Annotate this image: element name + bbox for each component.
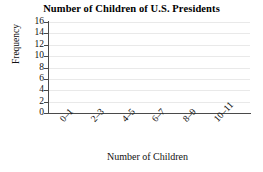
gridline <box>48 22 250 23</box>
x-axis-tick-labels: 0–12–34–56–78–910–11 <box>48 113 251 153</box>
y-tick-label: 14 <box>24 28 44 38</box>
y-tick-label: 16 <box>24 17 44 27</box>
y-tick-label: 2 <box>24 97 44 107</box>
gridline <box>48 56 250 57</box>
y-tick-label: 8 <box>24 63 44 73</box>
chart-figure: Number of Children of U.S. Presidents Fr… <box>0 0 263 172</box>
gridline <box>48 33 250 34</box>
y-tick-label: 6 <box>24 74 44 84</box>
gridline <box>48 102 250 103</box>
gridline <box>48 45 250 46</box>
gridline <box>48 68 250 69</box>
y-axis-title: Frequency <box>11 8 21 80</box>
y-axis-line <box>48 21 49 114</box>
y-tick-label: 4 <box>24 85 44 95</box>
gridline <box>48 79 250 80</box>
y-tick-label: 12 <box>24 40 44 50</box>
chart-title: Number of Children of U.S. Presidents <box>0 3 263 14</box>
plot-area <box>48 22 250 113</box>
x-axis-title: Number of Children <box>40 151 255 162</box>
gridline <box>48 90 250 91</box>
y-axis-tick-labels: 0246810121416 <box>24 22 44 113</box>
y-tick-label: 10 <box>24 51 44 61</box>
y-tick-label: 0 <box>24 108 44 118</box>
